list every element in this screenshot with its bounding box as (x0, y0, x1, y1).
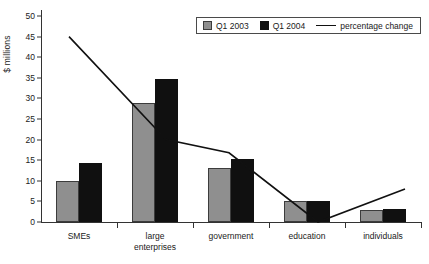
y-tick-mark (37, 98, 41, 99)
legend-label-q1-2003: Q1 2003 (216, 21, 249, 31)
y-tick-label: 20 (17, 135, 35, 144)
legend-label-percentage-change: percentage change (340, 21, 413, 31)
legend-swatch-q1-2004-icon (260, 21, 269, 30)
bar (284, 201, 307, 222)
x-axis-category-label: individuals (335, 231, 429, 242)
y-tick-mark (37, 180, 41, 181)
y-tick-label: 10 (17, 177, 35, 186)
y-tick-mark (37, 119, 41, 120)
bar (155, 79, 178, 222)
y-tick-mark (37, 139, 41, 140)
y-tick-label: 30 (17, 94, 35, 103)
y-tick-label: 25 (17, 115, 35, 124)
legend-swatch-q1-2003-icon (203, 21, 212, 30)
x-tick-mark (193, 222, 194, 228)
legend-label-q1-2004: Q1 2004 (273, 21, 306, 31)
bar (132, 103, 155, 222)
bar (208, 168, 231, 222)
y-tick-label: 35 (17, 74, 35, 83)
y-axis-line (41, 10, 42, 222)
bar (307, 201, 330, 222)
y-tick-label: 45 (17, 32, 35, 41)
y-tick-mark (37, 16, 41, 17)
y-tick-mark (37, 57, 41, 58)
y-tick-label: 40 (17, 53, 35, 62)
bar (79, 163, 102, 222)
legend-item-q1-2004: Q1 2004 (260, 21, 306, 31)
x-tick-mark (421, 222, 422, 228)
y-tick-label: 50 (17, 12, 35, 21)
y-tick-label: 5 (17, 197, 35, 206)
legend-item-q1-2003: Q1 2003 (203, 21, 249, 31)
bar (383, 209, 406, 222)
legend-line-percentage-change-icon (316, 25, 336, 26)
legend-item-percentage-change: percentage change (316, 21, 413, 31)
y-tick-label: 15 (17, 156, 35, 165)
y-tick-mark (37, 201, 41, 202)
y-tick-mark (37, 222, 41, 223)
x-axis-line (41, 222, 421, 223)
bar-line-combo-chart: $ millions 05101520253035404550 SMEslarg… (0, 0, 429, 264)
y-axis-title-container: $ millions (0, 0, 16, 230)
x-tick-mark (117, 222, 118, 228)
chart-legend: Q1 2003 Q1 2004 percentage change (196, 17, 421, 34)
x-tick-mark (345, 222, 346, 228)
y-tick-mark (37, 77, 41, 78)
bar (231, 159, 254, 222)
y-axis-title: $ millions (2, 14, 12, 94)
bar (56, 181, 79, 222)
y-tick-label: 0 (17, 218, 35, 227)
percentage-change-line (0, 0, 429, 264)
x-tick-mark (269, 222, 270, 228)
y-tick-mark (37, 160, 41, 161)
bar (360, 210, 383, 222)
y-tick-mark (37, 36, 41, 37)
